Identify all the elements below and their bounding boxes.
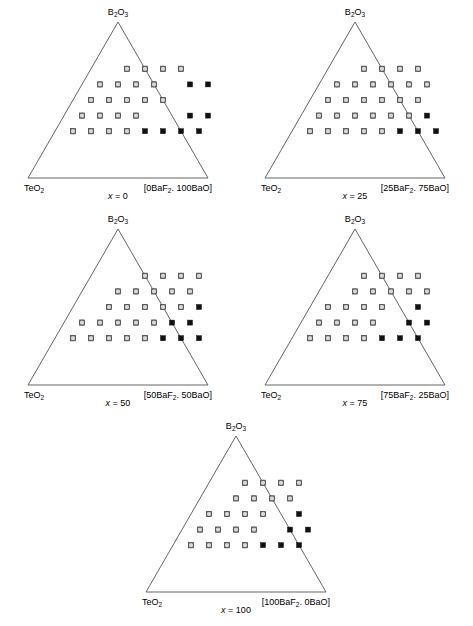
marker-open [151, 289, 156, 294]
marker-open [88, 97, 93, 102]
ternary-panel-x75: B2O3TeO2[75BaF2. 25BaO]x = 75 [237, 207, 473, 414]
marker-filled [398, 129, 403, 134]
marker-open [124, 66, 129, 71]
marker-open [142, 336, 147, 341]
marker-filled [161, 129, 166, 134]
panel-caption: x = 75 [237, 398, 473, 408]
marker-open [206, 543, 211, 548]
panel-caption: x = 50 [0, 398, 236, 408]
marker-open [307, 336, 312, 341]
marker-open [316, 113, 321, 118]
marker-open [361, 273, 366, 278]
marker-filled [197, 305, 202, 310]
marker-open [406, 289, 411, 294]
marker-open [142, 97, 147, 102]
marker-filled [206, 113, 211, 118]
marker-open [115, 113, 120, 118]
caption-value: = 50 [110, 398, 130, 408]
marker-open [151, 320, 156, 325]
marker-open [115, 289, 120, 294]
marker-open [397, 97, 402, 102]
marker-open [196, 273, 201, 278]
marker-filled [416, 129, 421, 134]
marker-open [307, 129, 312, 134]
marker-open [215, 527, 220, 532]
marker-open [361, 97, 366, 102]
marker-open [260, 511, 265, 516]
marker-open [206, 511, 211, 516]
marker-open [397, 273, 402, 278]
marker-open [97, 320, 102, 325]
marker-filled [170, 320, 175, 325]
marker-open [106, 336, 111, 341]
marker-filled [143, 129, 148, 134]
marker-open [325, 336, 330, 341]
marker-open [142, 66, 147, 71]
marker-filled [261, 543, 266, 548]
marker-filled [306, 527, 311, 532]
marker-open [316, 320, 321, 325]
marker-open [133, 113, 138, 118]
marker-filled [416, 305, 421, 310]
marker-open [361, 304, 366, 309]
marker-open [397, 66, 402, 71]
marker-open [106, 304, 111, 309]
marker-open [115, 82, 120, 87]
caption-value: = 100 [226, 605, 251, 615]
marker-filled [206, 82, 211, 87]
marker-open [361, 336, 366, 341]
ternary-panel-x50: B2O3TeO2[50BaF2. 50BaO]x = 50 [0, 207, 236, 414]
marker-open [415, 273, 420, 278]
marker-filled [434, 129, 439, 134]
panel-caption: x = 25 [237, 191, 473, 201]
marker-open [106, 129, 111, 134]
marker-open [415, 97, 420, 102]
marker-filled [279, 543, 284, 548]
marker-filled [188, 82, 193, 87]
marker-open [361, 129, 366, 134]
marker-open [224, 543, 229, 548]
marker-open [124, 97, 129, 102]
marker-open [124, 304, 129, 309]
marker-open [169, 289, 174, 294]
marker-filled [188, 320, 193, 325]
marker-open [79, 320, 84, 325]
marker-filled [188, 113, 193, 118]
marker-open [379, 129, 384, 134]
ternary-panel-x0: B2O3TeO2[0BaF2. 100BaO]x = 0 [0, 0, 236, 207]
marker-open [178, 304, 183, 309]
marker-open [370, 82, 375, 87]
marker-open [97, 82, 102, 87]
apex-label: B2O3 [226, 421, 247, 432]
marker-open [415, 66, 420, 71]
marker-open [352, 82, 357, 87]
marker-open [187, 289, 192, 294]
marker-open [88, 129, 93, 134]
marker-open [197, 527, 202, 532]
caption-value: = 0 [113, 191, 128, 201]
marker-filled [179, 336, 184, 341]
marker-open [370, 113, 375, 118]
marker-open [242, 480, 247, 485]
marker-open [370, 320, 375, 325]
panel-caption: x = 100 [118, 605, 354, 615]
marker-open [343, 304, 348, 309]
marker-open [352, 320, 357, 325]
marker-filled [179, 129, 184, 134]
marker-filled [425, 320, 430, 325]
marker-open [343, 336, 348, 341]
marker-filled [380, 336, 385, 341]
marker-open [388, 113, 393, 118]
marker-open [160, 304, 165, 309]
marker-open [334, 113, 339, 118]
marker-open [88, 336, 93, 341]
marker-open [379, 273, 384, 278]
marker-open [287, 496, 292, 501]
marker-open [124, 336, 129, 341]
marker-open [334, 82, 339, 87]
marker-open [278, 480, 283, 485]
marker-open [70, 336, 75, 341]
marker-open [242, 511, 247, 516]
apex-label: B2O3 [345, 7, 366, 18]
marker-open [251, 496, 256, 501]
